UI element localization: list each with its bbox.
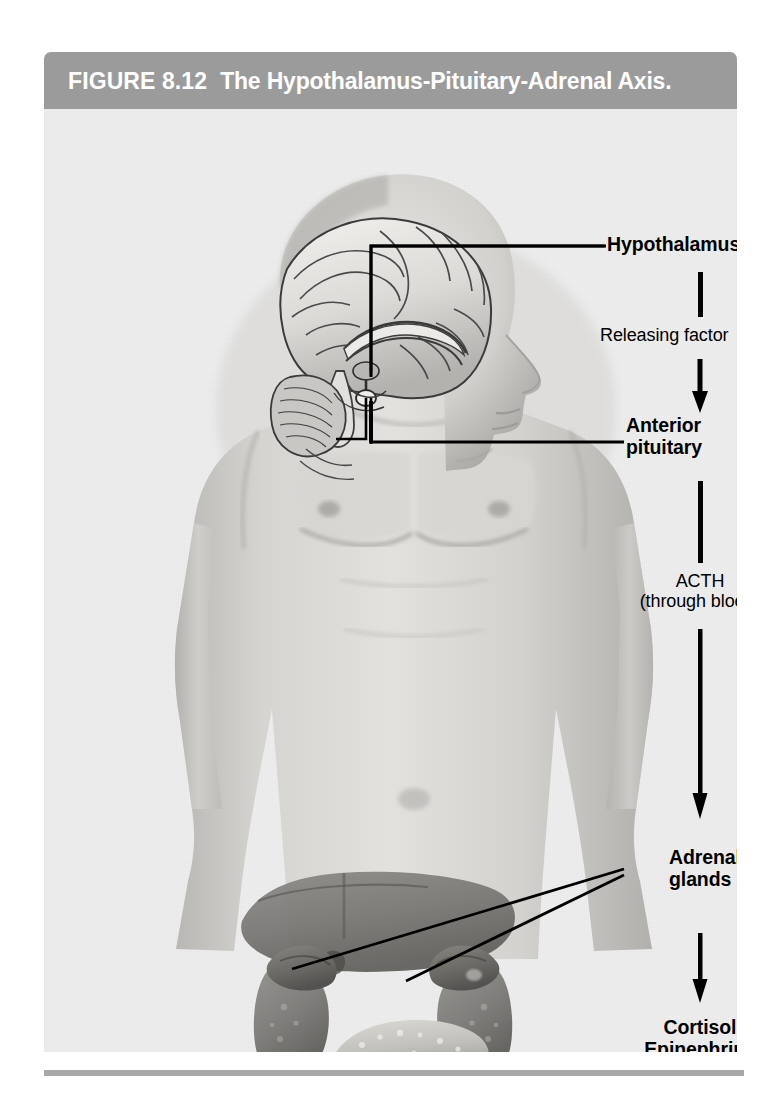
hypothalamus-structure (353, 362, 379, 380)
label-adrenal-glands: Adrenal glands (669, 847, 737, 891)
arrow-adrenal-to-hormones (684, 933, 716, 1005)
arrow-acth-to-adrenal (684, 629, 716, 821)
arrow-releasing-factor-to-pituitary (684, 359, 716, 415)
figure-number: FIGURE 8.12 (68, 67, 207, 93)
cerebellum (271, 375, 346, 456)
nipple-left (318, 501, 340, 517)
figure-canvas: Hypothalamus Releasing factor Anterior p… (44, 109, 737, 1052)
figure-title: FIGURE 8.12The Hypothalamus-Pituitary-Ad… (68, 67, 671, 94)
figure-title-bar: FIGURE 8.12The Hypothalamus-Pituitary-Ad… (44, 52, 737, 109)
figure-bottom-rule (44, 1070, 744, 1076)
label-acth: ACTH (through blood) (590, 571, 737, 611)
label-anterior-pituitary: Anterior pituitary (626, 415, 737, 459)
label-hormones: Cortisol Epinephrine Norepinephrine (584, 1017, 737, 1052)
label-hypothalamus: Hypothalamus (607, 234, 737, 256)
nipple-right (488, 501, 510, 517)
label-releasing-factor: Releasing factor (600, 325, 728, 345)
abdominal-organs (241, 872, 515, 1052)
connector-pituitary-to-acth (698, 481, 703, 563)
connector-hypothalamus-to-releasing-factor (698, 272, 703, 317)
figure-caption: The Hypothalamus-Pituitary-Adrenal Axis. (220, 67, 671, 93)
figure-panel: FIGURE 8.12The Hypothalamus-Pituitary-Ad… (44, 52, 737, 1052)
